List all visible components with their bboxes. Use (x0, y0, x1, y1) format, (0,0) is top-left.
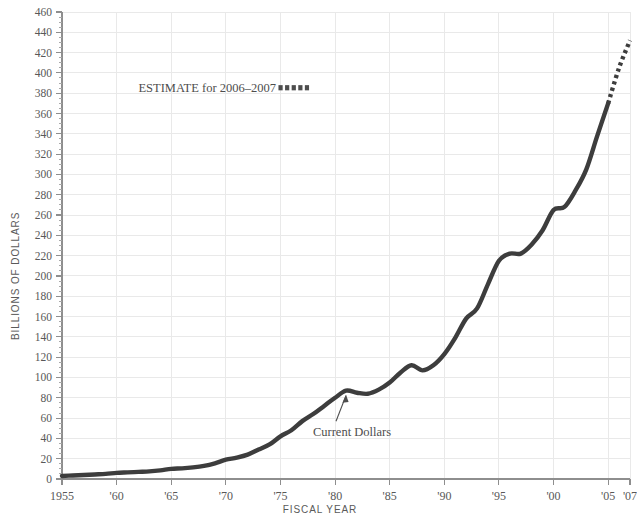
y-tick-label: 240 (35, 229, 53, 241)
legend-label: ESTIMATE for 2006–2007 (138, 81, 276, 95)
x-tick-labels: 1955'60'65'70'75'80'85'90'95'00'05'07 (50, 489, 637, 503)
x-tick-label: '95 (492, 489, 506, 503)
y-tick-label: 80 (41, 392, 53, 404)
y-tick-label: 220 (35, 250, 53, 262)
y-tick-label: 120 (35, 351, 53, 363)
x-tick-label: 1955 (50, 489, 74, 503)
x-tick-label: '60 (110, 489, 124, 503)
y-tick-label: 200 (35, 270, 53, 282)
series-line-estimate (608, 40, 630, 103)
x-tick-label: '80 (328, 489, 342, 503)
chart-container: 0204060801001201401601802002202402602803… (0, 0, 637, 527)
y-tick-label: 140 (35, 331, 53, 343)
y-tick-label: 440 (35, 26, 53, 38)
y-tick-label: 320 (35, 148, 53, 160)
y-tick-label: 460 (35, 6, 53, 18)
current-dollars-annotation: Current Dollars (313, 395, 391, 440)
y-tick-label: 400 (35, 67, 53, 79)
x-tick-label: '70 (219, 489, 233, 503)
y-tick-label: 20 (41, 453, 53, 465)
legend-swatch-square (298, 85, 302, 90)
y-tick-label: 160 (35, 311, 53, 323)
y-tick-label: 100 (35, 371, 53, 383)
y-tick-label: 340 (35, 128, 53, 140)
legend-swatch-square (305, 85, 309, 90)
x-tick-label: '07 (623, 489, 637, 503)
x-axis-title: FISCAL YEAR (283, 504, 357, 515)
line-chart: 0204060801001201401601802002202402602803… (0, 0, 637, 527)
x-axis (62, 479, 630, 485)
legend-swatch-square (285, 85, 289, 90)
x-tick-label: '85 (383, 489, 397, 503)
legend-swatch-square (292, 85, 296, 90)
y-tick-label: 60 (41, 412, 53, 424)
annotation-label: Current Dollars (313, 425, 391, 439)
y-axis-title: BILLIONS OF DOLLARS (10, 212, 21, 340)
y-tick-label: 300 (35, 168, 53, 180)
x-tick-label: '05 (601, 489, 615, 503)
y-axis (56, 12, 62, 479)
y-tick-label: 420 (35, 47, 53, 59)
y-tick-label: 0 (46, 473, 52, 485)
x-tick-label: '65 (164, 489, 178, 503)
y-tick-labels: 0204060801001201401601802002202402602803… (35, 6, 53, 485)
legend-swatch-square (278, 85, 282, 90)
y-tick-label: 380 (35, 87, 53, 99)
x-tick-label: '90 (437, 489, 451, 503)
y-tick-label: 280 (35, 189, 53, 201)
y-tick-label: 180 (35, 290, 53, 302)
y-tick-label: 360 (35, 108, 53, 120)
x-tick-label: '75 (273, 489, 287, 503)
x-tick-label: '00 (546, 489, 560, 503)
y-tick-label: 260 (35, 209, 53, 221)
y-tick-label: 40 (41, 432, 53, 444)
annotation-arrow-head (342, 395, 348, 403)
